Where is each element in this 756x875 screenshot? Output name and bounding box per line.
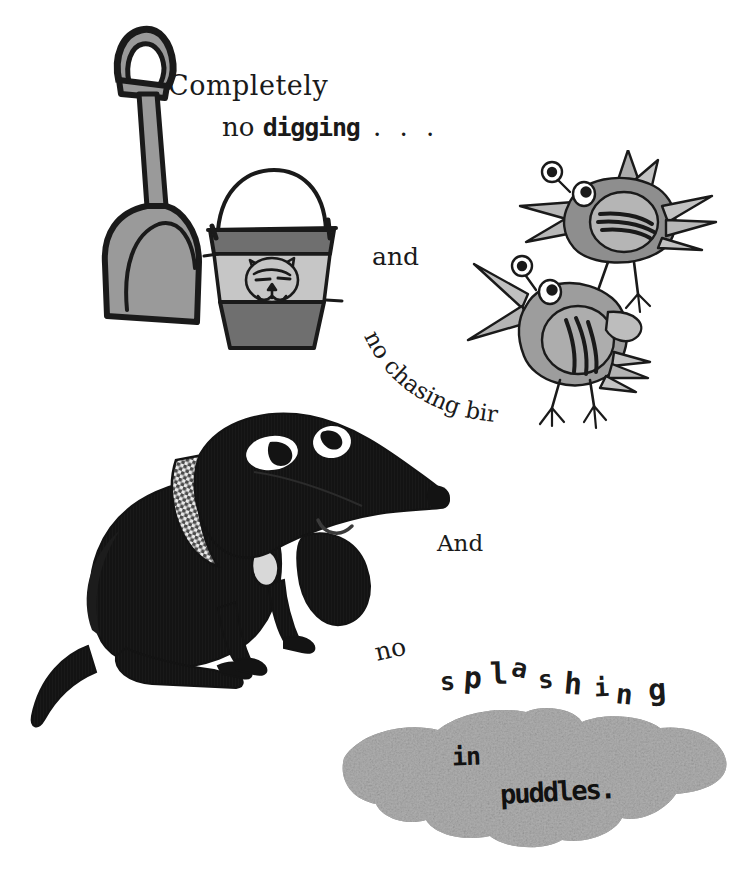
text-And: And [437, 532, 483, 555]
splashing-letter-p: p [463, 662, 483, 693]
text-no-digging: no digging . . . [222, 114, 439, 140]
splashing-letter-i: i [593, 675, 609, 701]
text-puddles: puddles. [499, 775, 614, 808]
text-no-word: no [222, 112, 263, 142]
splashing-letter-s: s [537, 666, 555, 692]
splashing-letter-g: g [647, 674, 667, 705]
splashing-letter-s: s [439, 669, 456, 695]
text-completely: Completely [168, 72, 328, 99]
text-in: in [452, 744, 481, 770]
text-digging-word: digging [263, 113, 360, 142]
splashing-letter-n: n [615, 680, 635, 710]
text-no-chasing-birds-arc: no chasing birds. [360, 318, 570, 428]
text-splashing: splashing [440, 655, 690, 715]
bucket-illustration [198, 168, 348, 364]
text-ellipsis: . . . [360, 112, 440, 142]
splashing-letter-h: h [563, 668, 584, 699]
text-and: and [372, 244, 419, 269]
picture-book-page: Completely no digging . . . and no chasi… [0, 0, 756, 875]
shovel-illustration [85, 20, 210, 344]
splashing-letter-a: a [509, 654, 530, 683]
text-no-second: no [372, 634, 408, 665]
splashing-letter-l: l [489, 659, 508, 690]
